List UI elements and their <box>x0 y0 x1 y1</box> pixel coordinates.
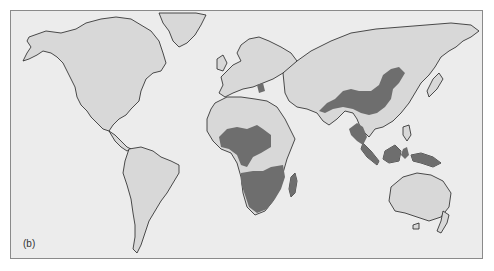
map-frame: (b) <box>10 10 483 259</box>
south-america <box>123 147 179 253</box>
north-america <box>23 17 166 131</box>
japan <box>427 73 443 97</box>
highlight-madagascar <box>289 173 297 197</box>
highlight-sulawesi <box>401 147 409 159</box>
central-america <box>109 131 131 151</box>
philippines <box>403 125 411 141</box>
tasmania <box>413 223 419 229</box>
panel-label: (b) <box>23 238 35 249</box>
uk <box>217 55 227 71</box>
australia <box>389 173 451 221</box>
world-map <box>11 11 483 259</box>
highlight-borneo <box>383 145 401 163</box>
greenland <box>159 13 206 47</box>
highlight-sumatra <box>361 143 379 165</box>
